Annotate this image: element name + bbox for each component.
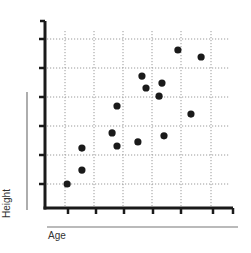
data-point: [158, 79, 165, 86]
data-point: [155, 93, 162, 100]
data-point: [78, 144, 85, 151]
y-axis-label-wrap: Height: [6, 196, 26, 216]
scatter-plot: [0, 0, 251, 253]
data-point: [198, 53, 205, 60]
data-point: [174, 46, 181, 53]
x-axis-label: Age: [48, 230, 66, 241]
y-axis-label: Height: [1, 189, 12, 218]
data-point: [160, 132, 167, 139]
data-point: [187, 111, 194, 118]
data-point: [64, 180, 71, 187]
data-point: [113, 102, 120, 109]
data-point: [142, 84, 149, 91]
data-point: [113, 142, 120, 149]
data-point: [134, 138, 141, 145]
data-point: [78, 166, 85, 173]
data-point: [138, 73, 145, 80]
data-point: [108, 129, 115, 136]
